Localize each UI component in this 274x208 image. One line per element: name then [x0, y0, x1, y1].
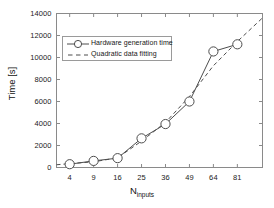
data-point-marker	[185, 97, 194, 106]
y-tick-label: 12000	[12, 31, 52, 40]
data-point-marker	[161, 119, 170, 128]
legend-item-quadratic-data-fitting: Quadratic data fitting	[63, 49, 171, 61]
y-tick-label: 0	[12, 163, 52, 172]
figure-chart: 02000400060008000100001200014000 4916253…	[0, 0, 274, 208]
x-axis-label-base: N	[130, 185, 137, 196]
data-point-marker	[65, 160, 74, 169]
y-tick-label: 14000	[12, 9, 52, 18]
chart-legend: Hardware generation time Quadratic data …	[62, 36, 172, 61]
legend-sample-dashed-line	[67, 49, 89, 61]
data-point-marker	[113, 154, 122, 163]
data-point-marker	[89, 156, 98, 165]
y-tick-label: 2000	[12, 141, 52, 150]
x-axis-label-subscript: inputs	[137, 191, 154, 198]
data-point-marker	[209, 47, 218, 56]
y-tick-label: 4000	[12, 119, 52, 128]
y-tick-label: 8000	[12, 75, 52, 84]
legend-label-hardware-generation-time: Hardware generation time	[91, 39, 173, 46]
y-tick-label: 6000	[12, 97, 52, 106]
x-tick-label: 81	[222, 173, 252, 182]
y-tick-label: 10000	[12, 53, 52, 62]
x-axis-label: Ninputs	[107, 185, 177, 196]
data-point-marker	[137, 134, 146, 143]
y-axis-label: Time [s]	[6, 54, 17, 114]
legend-label-quadratic-data-fitting: Quadratic data fitting	[91, 50, 157, 57]
data-point-marker	[233, 40, 242, 49]
